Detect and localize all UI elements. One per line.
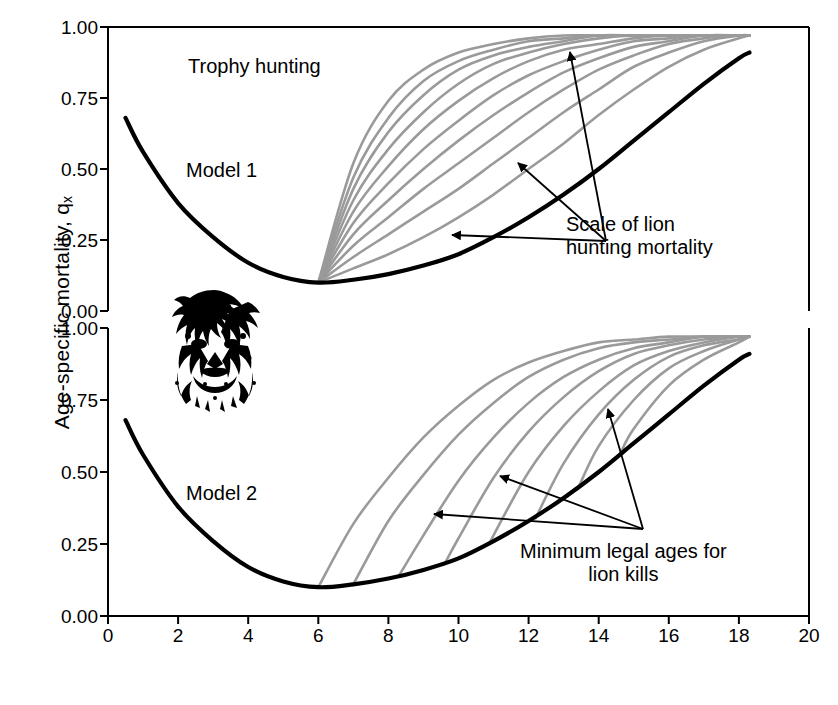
scenario-curve	[490, 336, 750, 544]
panel-label-model-2: Model 2	[186, 482, 257, 505]
figure-root: Age-specific mortality, qx 0.000.250.500…	[0, 0, 838, 705]
annotation-scale-of-lion-hunting-mortality: Scale of lion hunting mortality	[566, 213, 713, 259]
panel-title-trophy-hunting: Trophy hunting	[188, 55, 321, 78]
annotation-scale-line-1: Scale of lion	[566, 213, 713, 236]
lion-head-icon	[152, 288, 280, 420]
scenario-curve	[536, 337, 750, 518]
annotation-minages-line-2: lion kills	[520, 563, 727, 586]
plot-canvas	[0, 0, 838, 705]
annotation-minimum-legal-ages: Minimum legal ages for lion kills	[520, 540, 727, 586]
arrow-minages-upper	[608, 409, 643, 529]
annotation-minages-line-1: Minimum legal ages for	[520, 540, 727, 563]
annotation-scale-line-2: hunting mortality	[566, 236, 713, 259]
panel-label-model-1: Model 1	[186, 159, 257, 182]
